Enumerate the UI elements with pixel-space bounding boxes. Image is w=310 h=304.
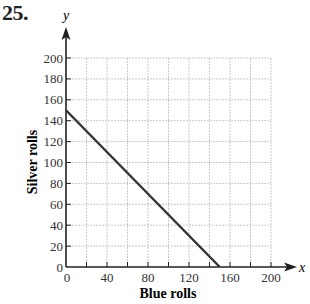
y-tick-label: 20 xyxy=(50,239,63,254)
x-axis-variable: x xyxy=(298,260,306,275)
y-tick-label: 60 xyxy=(50,197,63,212)
x-tick-label: 160 xyxy=(220,270,240,285)
y-tick-label: 0 xyxy=(57,260,64,275)
y-tick-label: 80 xyxy=(50,176,63,191)
y-axis-variable: y xyxy=(61,8,70,23)
axes xyxy=(62,27,298,272)
grid-lines xyxy=(66,58,271,267)
x-tick-label: 0 xyxy=(64,270,71,285)
y-tick-label: 200 xyxy=(44,51,64,66)
x-tick-label: 120 xyxy=(179,270,199,285)
line-chart: 0408012016020002040608010012014016018020… xyxy=(0,0,310,304)
data-series xyxy=(66,110,220,267)
x-tick-label: 200 xyxy=(261,270,281,285)
y-tick-label: 140 xyxy=(44,113,64,128)
y-axis-label: Silver rolls xyxy=(25,129,40,194)
y-tick-label: 40 xyxy=(50,218,63,233)
tick-labels: 0408012016020002040608010012014016018020… xyxy=(44,51,281,286)
y-tick-label: 180 xyxy=(44,71,64,86)
y-tick-label: 120 xyxy=(44,134,64,149)
data-line xyxy=(66,110,220,267)
x-axis-label: Blue rolls xyxy=(140,286,197,301)
x-tick-label: 80 xyxy=(142,270,155,285)
x-tick-label: 40 xyxy=(101,270,114,285)
y-tick-label: 160 xyxy=(44,92,64,107)
y-tick-label: 100 xyxy=(44,155,64,170)
